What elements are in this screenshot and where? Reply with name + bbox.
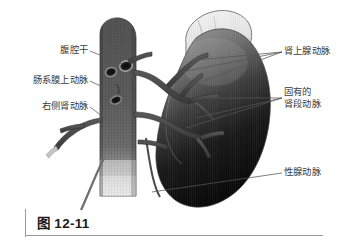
label-right-renal-artery: 右侧肾动脉 bbox=[8, 101, 88, 113]
label-proper-renal-segmental-artery: 固有的 肾段动脉 bbox=[284, 87, 321, 110]
label-superior-mesenteric-artery: 肠系膜上动脉 bbox=[2, 75, 88, 87]
abdominal-aorta bbox=[98, 16, 140, 200]
label-proper-renal-segmental-artery-line2: 肾段动脉 bbox=[284, 99, 321, 111]
label-gonadal-artery: 性腺动脉 bbox=[284, 167, 321, 179]
kidney bbox=[150, 20, 280, 220]
label-proper-renal-segmental-artery-line1: 固有的 bbox=[284, 87, 321, 99]
label-celiac-trunk: 腹腔干 bbox=[26, 45, 88, 57]
caption-rule bbox=[25, 235, 323, 236]
anatomical-figure: 腹腔干 肠系膜上动脉 右侧肾动脉 肾上腺动脉 固有的 肾段动脉 性腺动脉 图 1… bbox=[0, 0, 343, 247]
label-adrenal-artery: 肾上腺动脉 bbox=[284, 46, 330, 58]
figure-caption: 图 12-11 bbox=[37, 212, 90, 232]
